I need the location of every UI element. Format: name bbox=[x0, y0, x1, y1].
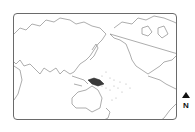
africa-outline bbox=[14, 66, 22, 100]
north-label: N bbox=[180, 101, 192, 110]
pacific-islands bbox=[93, 71, 130, 100]
south-america-outline bbox=[148, 76, 177, 120]
north-arrow: N bbox=[180, 92, 192, 110]
north-america-outline bbox=[110, 16, 177, 74]
north-arrow-icon bbox=[182, 92, 190, 98]
australia-outline bbox=[72, 86, 102, 112]
world-map bbox=[13, 13, 177, 120]
new-zealand-outline bbox=[104, 108, 110, 120]
indonesia-outline bbox=[72, 76, 88, 86]
arctic-islands-outline bbox=[142, 26, 168, 38]
eurasia-outline bbox=[14, 18, 106, 74]
papua-new-guinea-highlight bbox=[88, 78, 104, 86]
map-graphic bbox=[14, 14, 177, 120]
